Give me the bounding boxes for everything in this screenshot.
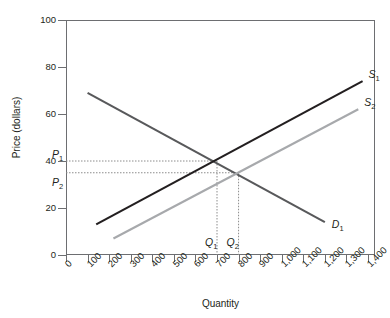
x-axis-title: Quantity — [66, 298, 375, 309]
plot-area — [66, 20, 375, 255]
y-tick-label: 40 — [10, 156, 56, 166]
y-tick-label: 100 — [10, 15, 56, 25]
x-tick-label: 0 — [63, 258, 74, 269]
y-tick — [58, 20, 66, 21]
y-axis: 020406080100 — [0, 0, 56, 318]
annotation-p2: P2 — [52, 176, 63, 191]
y-tick — [58, 67, 66, 68]
supply-demand-chart: Price (dollars) 020406080100 01002003004… — [0, 0, 390, 318]
y-tick-label: 60 — [10, 109, 56, 119]
y-tick — [58, 114, 66, 115]
curve-label-s1: S1 — [369, 68, 380, 83]
y-tick — [58, 208, 66, 209]
y-tick — [58, 255, 66, 256]
y-tick-label: 0 — [10, 250, 56, 260]
y-tick-label: 80 — [10, 62, 56, 72]
y-tick-label: 20 — [10, 203, 56, 213]
curve-label-s2: S2 — [364, 96, 375, 111]
annotation-q1: Q1 — [205, 236, 217, 251]
curve-label-d1: D1 — [332, 218, 344, 233]
annotation-p1: P1 — [52, 148, 63, 163]
annotation-q2: Q2 — [227, 236, 239, 251]
